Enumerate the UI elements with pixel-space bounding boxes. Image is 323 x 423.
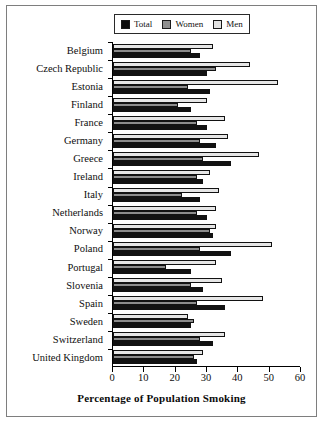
bar-group	[113, 258, 300, 276]
y-axis-label: Italy	[10, 187, 108, 205]
legend-label: Total	[134, 20, 152, 29]
y-axis-label: Norway	[10, 223, 108, 241]
bar-group	[113, 168, 300, 186]
y-axis-label: France	[10, 114, 108, 132]
bar-total	[113, 71, 207, 76]
legend-entry: Women	[162, 20, 203, 29]
bar-total	[113, 89, 210, 94]
bar-total	[113, 251, 231, 256]
bar-total	[113, 161, 231, 166]
bar-total	[113, 323, 191, 328]
y-axis-label: Slovenia	[10, 277, 108, 295]
x-axis-tick-label: 60	[295, 373, 306, 384]
bar-group	[113, 204, 300, 222]
bar-group	[113, 150, 300, 168]
y-axis-label: Belgium	[10, 42, 108, 60]
bar-group	[113, 42, 300, 60]
legend-label: Women	[175, 20, 203, 29]
bar-groups	[113, 42, 300, 366]
bar-group	[113, 114, 300, 132]
plot-area	[112, 42, 300, 367]
y-axis-label: Germany	[10, 132, 108, 150]
bar-group	[113, 348, 300, 366]
bar-group	[113, 276, 300, 294]
x-axis-tick-label: 40	[232, 373, 243, 384]
bar-total	[113, 53, 200, 58]
y-axis-label: Ireland	[10, 168, 108, 186]
y-axis-label: Netherlands	[10, 205, 108, 223]
legend-entry: Total	[121, 20, 152, 29]
bar-total	[113, 233, 213, 238]
bar-total	[113, 215, 207, 220]
y-axis-label: United Kingdom	[10, 349, 108, 367]
bar-group	[113, 222, 300, 240]
y-axis-label: Switzerland	[10, 331, 108, 349]
y-axis-category-labels: BelgiumCzech RepublicEstoniaFinlandFranc…	[10, 42, 108, 367]
bar-total	[113, 125, 207, 130]
x-axis-title: Percentage of Population Smoking	[6, 392, 317, 404]
y-axis-label: Czech Republic	[10, 60, 108, 78]
bar-total	[113, 107, 191, 112]
bar-total	[113, 359, 197, 364]
bar-group	[113, 132, 300, 150]
x-axis-tick-label: 0	[109, 373, 114, 384]
bar-total	[113, 143, 216, 148]
legend-swatch-icon	[121, 20, 130, 29]
y-axis-label: Poland	[10, 241, 108, 259]
bar-group	[113, 96, 300, 114]
bar-total	[113, 287, 203, 292]
bar-group	[113, 294, 300, 312]
y-axis-label: Greece	[10, 150, 108, 168]
x-axis-tick-labels: 0102030405060	[112, 373, 300, 387]
bar-total	[113, 179, 203, 184]
y-axis-label: Portugal	[10, 259, 108, 277]
bar-total	[113, 341, 213, 346]
y-axis-label: Spain	[10, 295, 108, 313]
y-axis-label: Sweden	[10, 313, 108, 331]
chart-legend: TotalWomenMen	[114, 14, 250, 34]
x-axis-tick-label: 20	[169, 373, 180, 384]
y-axis-label: Estonia	[10, 78, 108, 96]
legend-swatch-icon	[213, 20, 222, 29]
y-axis-label: Finland	[10, 96, 108, 114]
bar-group	[113, 186, 300, 204]
chart-figure: TotalWomenMen BelgiumCzech RepublicEston…	[0, 0, 323, 423]
bar-group	[113, 78, 300, 96]
x-axis-tick-label: 50	[263, 373, 274, 384]
bar-group	[113, 312, 300, 330]
x-axis-tick-label: 30	[201, 373, 212, 384]
legend-entry: Men	[213, 20, 243, 29]
x-axis-tick-label: 10	[138, 373, 149, 384]
bar-group	[113, 240, 300, 258]
bar-total	[113, 305, 225, 310]
legend-swatch-icon	[162, 20, 171, 29]
bar-group	[113, 60, 300, 78]
bar-total	[113, 269, 191, 274]
bar-group	[113, 330, 300, 348]
bar-total	[113, 197, 200, 202]
legend-label: Men	[226, 20, 243, 29]
